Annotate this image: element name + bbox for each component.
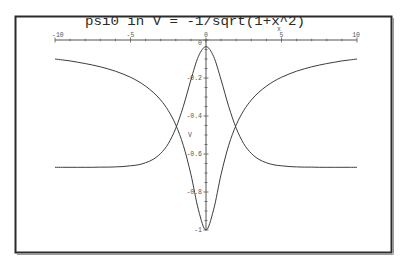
- y-tick-label: -1: [194, 227, 202, 234]
- x-tick-label: -5: [127, 32, 135, 39]
- x-axis-label: x: [277, 26, 281, 33]
- x-tick-label: 0: [204, 32, 208, 39]
- x-tick-label: 10: [352, 32, 360, 39]
- y-tick-label: -0.2: [186, 75, 202, 82]
- plot-frame: [16, 17, 392, 253]
- x-tick-label: 5: [280, 32, 284, 39]
- y-tick-label: 0: [198, 40, 202, 47]
- chart-title: psi0 in V = -1/sqrt(1+x^2): [85, 14, 305, 29]
- y-tick-label: -0.4: [186, 113, 202, 120]
- y-tick-label: -0.6: [186, 151, 202, 158]
- plot-canvas: psi0 in V = -1/sqrt(1+x^2) -10-505100-0.…: [0, 0, 405, 267]
- y-axis-label: V: [188, 132, 192, 139]
- x-tick-label: -10: [52, 32, 64, 39]
